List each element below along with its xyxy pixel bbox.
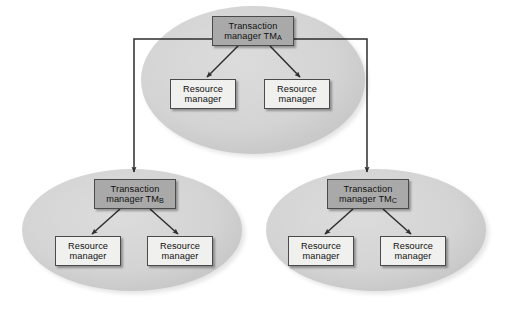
resource-manager-b2-box[interactable]: Resource manager bbox=[147, 236, 213, 266]
rm-c2-line1: Resource bbox=[393, 241, 433, 251]
resource-manager-a1-box[interactable]: Resource manager bbox=[170, 79, 236, 109]
rm-a2-line1: Resource bbox=[277, 84, 317, 94]
tm-c-line2-prefix: manager TM bbox=[339, 194, 392, 204]
tm-b-subscript: B bbox=[159, 196, 164, 205]
transaction-manager-b-box[interactable]: Transaction manager TMB bbox=[94, 179, 176, 209]
rm-b2-line1: Resource bbox=[160, 241, 200, 251]
tm-a-line2: manager TMA bbox=[224, 31, 282, 41]
tm-b-line1: Transaction bbox=[111, 184, 160, 194]
tm-c-line1: Transaction bbox=[344, 184, 393, 194]
resource-manager-a2-box[interactable]: Resource manager bbox=[264, 79, 330, 109]
rm-b1-line2: manager bbox=[70, 251, 107, 261]
tm-a-subscript: A bbox=[277, 33, 282, 42]
resource-manager-c1-box[interactable]: Resource manager bbox=[288, 236, 354, 266]
rm-a1-line1: Resource bbox=[183, 84, 223, 94]
resource-manager-b1-box[interactable]: Resource manager bbox=[55, 236, 121, 266]
diagram-canvas: Transaction manager TMA Resource manager… bbox=[0, 0, 506, 310]
rm-a1-line2: manager bbox=[185, 94, 222, 104]
transaction-manager-a-box[interactable]: Transaction manager TMA bbox=[212, 16, 294, 46]
tm-b-line2: manager TMB bbox=[106, 194, 164, 204]
tm-c-line2: manager TMC bbox=[339, 194, 397, 204]
rm-b1-line1: Resource bbox=[68, 241, 108, 251]
rm-a2-line2: manager bbox=[279, 94, 316, 104]
rm-c1-line1: Resource bbox=[301, 241, 341, 251]
resource-manager-c2-box[interactable]: Resource manager bbox=[380, 236, 446, 266]
tm-a-line1: Transaction bbox=[229, 21, 278, 31]
tm-a-line2-prefix: manager TM bbox=[224, 31, 277, 41]
transaction-manager-c-box[interactable]: Transaction manager TMC bbox=[327, 179, 409, 209]
rm-b2-line2: manager bbox=[162, 251, 199, 261]
rm-c1-line2: manager bbox=[303, 251, 340, 261]
tm-c-subscript: C bbox=[392, 196, 397, 205]
tm-b-line2-prefix: manager TM bbox=[106, 194, 159, 204]
rm-c2-line2: manager bbox=[395, 251, 432, 261]
